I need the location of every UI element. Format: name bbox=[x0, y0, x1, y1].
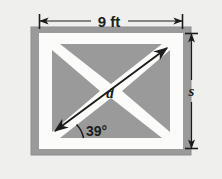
width-dimension-label: 9 ft bbox=[98, 13, 121, 30]
diagonal-label: d bbox=[106, 85, 114, 101]
height-dimension-label: s bbox=[188, 83, 195, 99]
geometry-figure: 9 ft s d 39° bbox=[0, 0, 222, 179]
angle-label: 39° bbox=[86, 123, 107, 139]
figure-canvas: 9 ft s d 39° bbox=[0, 0, 222, 179]
